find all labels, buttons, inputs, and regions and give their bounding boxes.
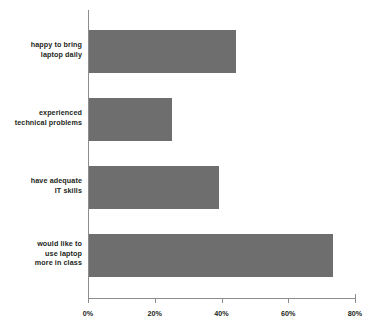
x-axis-tick-mark bbox=[88, 294, 89, 303]
x-axis-tick-label: 0% bbox=[68, 309, 108, 318]
x-axis-tick-label: 40% bbox=[202, 309, 242, 318]
bar-chart: happy to bring laptop daily experienced … bbox=[0, 0, 391, 334]
x-axis-tick-label: 60% bbox=[268, 309, 308, 318]
x-axis-tick-mark bbox=[355, 294, 356, 303]
x-axis-tick-label: 80% bbox=[335, 309, 375, 318]
x-axis-tick-label: 20% bbox=[135, 309, 175, 318]
x-axis-tick-mark bbox=[155, 298, 156, 303]
x-axis-tick-mark bbox=[222, 298, 223, 303]
x-axis-tick-mark bbox=[288, 298, 289, 303]
x-axis-ticks: 0%20%40%60%80% bbox=[0, 0, 391, 334]
